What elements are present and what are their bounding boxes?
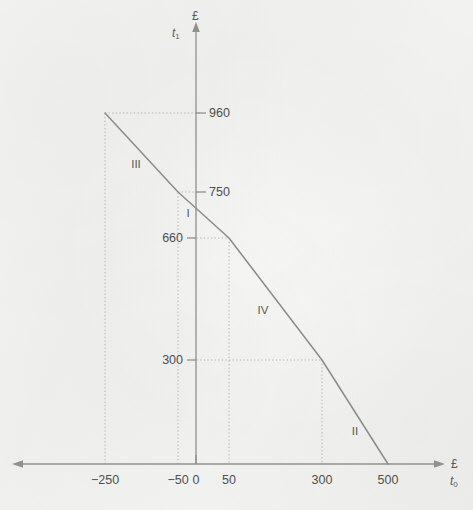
x-axis-arrowhead-left [12, 460, 23, 468]
y-axis-arrowhead [192, 22, 200, 32]
x-tick-label-50: 50 [213, 474, 245, 487]
region-label-III: III [125, 159, 147, 171]
y-tick-label-750: 750 [209, 186, 230, 199]
x-axis-pound-symbol: £ [451, 457, 458, 471]
x-tick-label-300: 300 [300, 474, 344, 487]
y-tick-label-300: 300 [150, 354, 183, 367]
x-tick-label-0: 0 [184, 474, 208, 487]
x-axis-period-caption: t0 [450, 475, 458, 489]
x-axis-arrowhead [434, 460, 445, 468]
y-axis-period-caption: t1 [172, 27, 180, 41]
axis-lines [18, 30, 437, 464]
region-label-IV: IV [252, 305, 274, 317]
y-axis-subscript: 1 [175, 32, 179, 41]
plot-canvas [0, 0, 473, 510]
x-tick-label-neg250: −250 [80, 474, 130, 487]
x-axis-currency-caption: £ [451, 458, 458, 470]
constraint-segment-III-I-IV-II [105, 113, 388, 464]
region-label-I: I [180, 208, 196, 220]
y-tick-label-660: 660 [150, 232, 183, 245]
budget-constraint-line [105, 113, 388, 464]
region-label-II: II [346, 426, 364, 438]
y-axis-currency-caption: £ [192, 10, 199, 22]
y-tick-label-960: 960 [209, 107, 230, 120]
budget-constraint-figure: £ t1 £ t0 960 750 660 300 −250 −50 0 50 … [0, 0, 473, 510]
x-tick-label-500: 500 [366, 474, 410, 487]
y-axis-pound-symbol: £ [192, 9, 199, 23]
x-axis-subscript: 0 [453, 480, 457, 489]
